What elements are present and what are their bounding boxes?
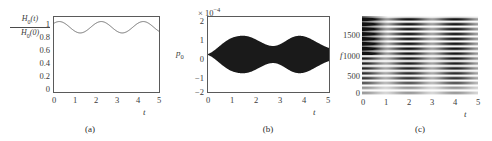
panel-b-xtick-2: 2 — [252, 96, 260, 105]
panel-b-ytick-m1: −1 — [185, 74, 204, 83]
panel-c-ytick-1500: 1500 — [338, 31, 360, 40]
panel-c-xtick-5: 5 — [474, 98, 482, 107]
panel-b-xtick-5: 5 — [324, 96, 332, 105]
panel-a-ytick-06: 0.6 — [32, 46, 50, 55]
panel-b-ylabel: p0 — [176, 48, 184, 60]
panel-a-ytick-08: 0.8 — [32, 33, 50, 42]
panel-c-xtick-0: 0 — [359, 98, 367, 107]
panel-b-ytick-1: 1 — [188, 36, 204, 45]
panel-b-caption: (b) — [256, 124, 280, 134]
panel-b-signal-svg — [208, 17, 329, 92]
panel-b-ytick-0: 0 — [188, 55, 204, 64]
panel-c-ytick-1000: 1000 — [338, 52, 360, 61]
panel-a-ytick-02: 0.2 — [32, 72, 50, 81]
panel-c-xlabel: t — [464, 109, 467, 119]
panel-b-xtick-0: 0 — [204, 96, 212, 105]
panel-a-xtick-3: 3 — [113, 96, 121, 105]
panel-c-ytick-0: 0 — [338, 89, 360, 98]
panel-a-xtick-1: 1 — [71, 96, 79, 105]
figure-container: H0(t) H0(0) 1 0.8 0.6 0.4 0.2 0 0 1 2 3 … — [0, 0, 492, 141]
panel-c-xtick-4: 4 — [451, 98, 459, 107]
panel-b-exponent-power: −4 — [213, 6, 220, 13]
panel-a-xtick-0: 0 — [50, 96, 58, 105]
panel-a: H0(t) H0(0) 1 0.8 0.6 0.4 0.2 0 0 1 2 3 … — [0, 0, 168, 141]
panel-a-xtick-2: 2 — [92, 96, 100, 105]
panel-a-xtick-5: 5 — [155, 96, 163, 105]
panel-c-xtick-3: 3 — [428, 98, 436, 107]
panel-a-caption: (a) — [78, 124, 102, 134]
panel-c-xtick-1: 1 — [382, 98, 390, 107]
panel-a-ytick-1: 1 — [32, 20, 50, 29]
panel-c-xtick-2: 2 — [405, 98, 413, 107]
panel-b: × 10−4 p0 2 1 0 −1 −2 0 1 2 3 4 5 t (b) — [168, 0, 336, 141]
panel-c: f 1500 1000 500 0 0 1 2 3 4 5 t (c) — [336, 0, 492, 141]
panel-b-ylabel-sub: 0 — [181, 53, 184, 60]
panel-b-ytick-m2: −2 — [185, 88, 204, 97]
panel-a-ytick-04: 0.4 — [32, 59, 50, 68]
panel-a-ytick-0: 0 — [32, 85, 50, 94]
panel-a-curve-svg — [54, 17, 159, 92]
panel-a-plot-frame — [53, 16, 160, 93]
panel-b-xtick-1: 1 — [228, 96, 236, 105]
panel-b-xtick-4: 4 — [300, 96, 308, 105]
panel-c-spectrogram — [362, 16, 478, 95]
panel-a-xlabel: t — [143, 107, 146, 117]
panel-a-xtick-4: 4 — [134, 96, 142, 105]
panel-c-caption: (c) — [408, 124, 432, 134]
panel-b-xlabel: t — [313, 107, 316, 117]
panel-b-xtick-3: 3 — [276, 96, 284, 105]
panel-b-ytick-2: 2 — [188, 17, 204, 26]
panel-c-ytick-500: 500 — [338, 72, 360, 81]
panel-b-plot-frame — [207, 16, 330, 93]
